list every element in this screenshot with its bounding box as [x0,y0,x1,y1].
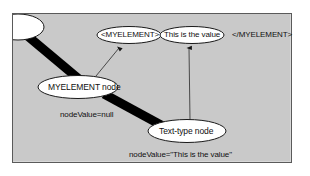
text-node-value-annotation: nodeValue="This is the value" [129,151,232,159]
clipped-root-ellipse [0,14,44,40]
value-label: This is the value [164,31,220,39]
figure-root: <MYELEMENT> This is the value </MYELEMEN… [0,0,310,176]
connector-element-to-tag [96,48,119,76]
close-tag-label: </MYELEMENT> [232,31,292,39]
open-tag-label: <MYELEMENT> [101,31,159,39]
connector-text-to-value [189,48,190,120]
element-node-value-annotation: nodeValue=null [60,111,113,119]
text-node-label: Text-type node [159,127,213,136]
element-node-label: MYELEMENT node [48,83,121,92]
